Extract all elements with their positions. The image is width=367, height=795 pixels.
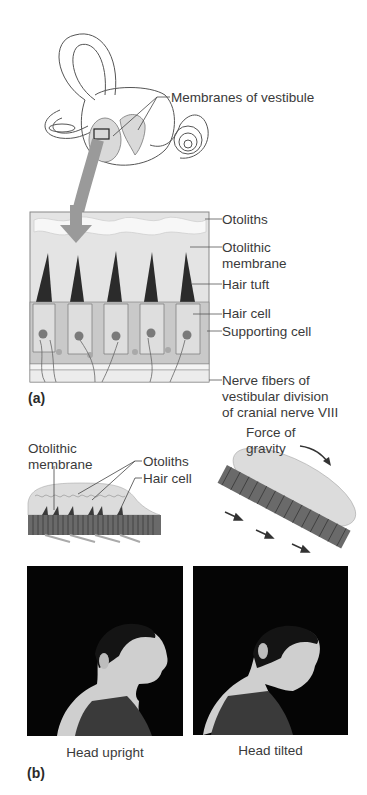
head-upright-photo bbox=[27, 566, 183, 736]
otolithic-membrane-label-1: Otolithic bbox=[222, 240, 271, 255]
nerve-fibers-label-2: vestibular division bbox=[222, 389, 329, 404]
head-upright-caption: Head upright bbox=[27, 745, 183, 760]
nerve-fibers-label-3: of cranial nerve VIII bbox=[222, 405, 338, 420]
panel-b-label: (b) bbox=[27, 765, 45, 781]
hair-tuft-label: Hair tuft bbox=[222, 277, 269, 292]
upright-hair-cell-label: Hair cell bbox=[143, 471, 192, 486]
head-tilted-silhouette-icon bbox=[193, 566, 348, 735]
head-tilted-caption: Head tilted bbox=[193, 743, 348, 758]
head-upright-silhouette-icon bbox=[27, 566, 183, 736]
otolithic-membrane-label-2: membrane bbox=[222, 256, 287, 271]
upright-otolithic-membrane-label-2: membrane bbox=[28, 457, 93, 472]
upright-otoliths-label: Otoliths bbox=[143, 454, 189, 469]
force-of-gravity-label-1: Force of bbox=[246, 425, 296, 440]
membranes-of-vestibule-label: Membranes of vestibule bbox=[171, 90, 314, 105]
panel-a-label: (a) bbox=[28, 390, 45, 406]
force-of-gravity-label-2: gravity bbox=[246, 441, 286, 456]
supporting-cell-label: Supporting cell bbox=[222, 324, 311, 339]
otoliths-label: Otoliths bbox=[222, 212, 268, 227]
head-tilted-photo bbox=[193, 566, 348, 735]
hair-cell-label: Hair cell bbox=[222, 306, 271, 321]
nerve-fibers-label-1: Nerve fibers of bbox=[222, 373, 310, 388]
upright-otolithic-membrane-label-1: Otolithic bbox=[28, 441, 77, 456]
